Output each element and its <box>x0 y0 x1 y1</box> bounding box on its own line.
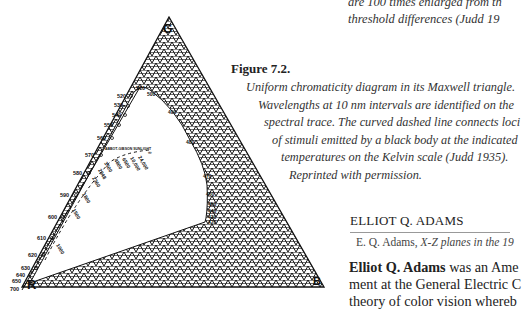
svg-text:510: 510 <box>136 85 145 91</box>
figure-caption-line: temperatures on the Kelvin scale (Judd 1… <box>281 149 508 167</box>
vertex-label-blue: B <box>313 275 321 287</box>
svg-text:620: 620 <box>28 252 37 258</box>
svg-text:490: 490 <box>168 109 177 115</box>
svg-text:530: 530 <box>114 102 123 108</box>
previous-caption-line: are 100 times enlarged from th <box>348 0 526 11</box>
body-text: theory of color vision whereb <box>349 293 521 310</box>
svg-text:630: 630 <box>21 265 30 271</box>
sunlight-annotation: ABBOT-GIBSON SUNLIGHT <box>105 147 152 151</box>
svg-text:700: 700 <box>10 286 19 292</box>
previous-caption-fragment: are 100 times enlarged from th threshold… <box>348 0 526 28</box>
svg-text:520: 520 <box>117 93 126 99</box>
figure-caption-line: spectral trace. The curved dashed line c… <box>264 114 520 132</box>
body-text: ment at the General Electric C <box>349 276 521 293</box>
svg-text:600: 600 <box>48 214 57 220</box>
section-subtitle: E. Q. Adams, X-Z planes in the 19 <box>356 236 514 248</box>
vertex-label-green: G <box>163 22 172 36</box>
svg-text:540: 540 <box>112 112 121 118</box>
svg-text:500: 500 <box>147 91 156 97</box>
body-text: was an Ame <box>446 259 519 275</box>
figure-caption-line: Reprinted with permission. <box>289 167 422 185</box>
figure-title: Figure 7.2. <box>231 61 290 77</box>
figure-caption-line: Wavelengths at 10 nm intervals are ident… <box>258 97 514 115</box>
body-name: Elliot Q. Adams <box>349 259 446 275</box>
svg-text:420: 420 <box>208 219 217 225</box>
svg-text:610: 610 <box>37 235 46 241</box>
svg-text:450: 450 <box>208 201 217 207</box>
svg-text:590: 590 <box>60 192 69 198</box>
figure-caption-line: of stimuli emitted by a black body at th… <box>272 132 518 150</box>
svg-text:460: 460 <box>206 191 215 197</box>
subtitle-title: X-Z planes in the 19 <box>421 236 514 248</box>
svg-text:650: 650 <box>12 278 21 284</box>
subtitle-author: E. Q. Adams, <box>356 236 421 248</box>
svg-text:480: 480 <box>186 139 195 145</box>
svg-text:570: 570 <box>85 152 94 158</box>
svg-text:580: 580 <box>73 170 82 176</box>
body-paragraph: Elliot Q. Adams was an Ame ment at the G… <box>349 259 521 310</box>
section-heading: ELLIOT Q. ADAMS <box>350 213 464 229</box>
vertex-label-red: R <box>27 277 37 292</box>
section-divider <box>350 232 510 233</box>
svg-text:470: 470 <box>203 173 212 179</box>
svg-text:560: 560 <box>97 135 106 141</box>
figure-caption-line: Uniform chromaticity diagram in its Maxw… <box>246 79 515 97</box>
previous-caption-line: threshold differences (Judd 19 <box>348 11 526 28</box>
svg-text:550: 550 <box>104 122 113 128</box>
